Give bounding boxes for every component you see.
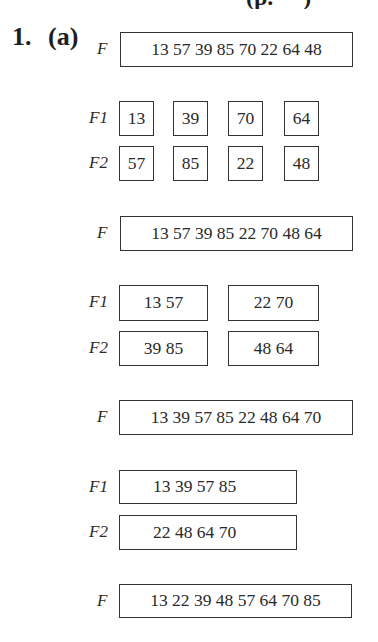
file-f-contents: 13 39 57 85 22 48 64 70 (119, 400, 353, 435)
run-box: 13 (119, 101, 154, 136)
file-label-f1: F1 (89, 292, 108, 312)
run-box: 64 (284, 101, 319, 136)
run-box: 48 64 (228, 331, 319, 366)
run-box: 70 (228, 101, 263, 136)
run-box: 22 48 64 70 (119, 515, 297, 550)
file-label-f2: F2 (89, 338, 108, 358)
cropped-section-heading: (p. ) (0, 0, 378, 9)
file-label-f1: F1 (89, 477, 108, 497)
file-label-f: F (97, 591, 107, 611)
file-f-contents: 13 22 39 48 57 64 70 85 (119, 584, 352, 618)
file-label-f2: F2 (89, 522, 108, 542)
file-label-f: F (97, 223, 107, 243)
file-f-contents: 13 57 39 85 22 70 48 64 (120, 216, 353, 251)
run-box: 13 57 (119, 285, 208, 321)
file-label-f: F (97, 407, 107, 427)
run-box: 57 (119, 146, 154, 181)
run-box: 48 (284, 146, 319, 181)
run-box: 39 85 (119, 331, 208, 366)
cropped-heading-text: (p. ) (150, 0, 311, 9)
file-label-f2: F2 (89, 153, 108, 173)
file-label-f1: F1 (89, 108, 108, 128)
part-label: (a) (48, 22, 78, 52)
run-box: 13 39 57 85 (119, 470, 297, 504)
file-f-contents: 13 57 39 85 70 22 64 48 (120, 32, 353, 67)
problem-number: 1. (12, 22, 32, 52)
file-label-f: F (97, 39, 107, 59)
run-box: 22 70 (228, 285, 319, 321)
run-box: 85 (173, 146, 208, 181)
run-box: 22 (228, 146, 263, 181)
run-box: 39 (173, 101, 208, 136)
